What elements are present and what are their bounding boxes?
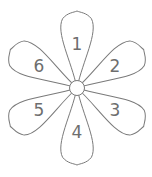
petal-label: 5 — [34, 100, 45, 120]
petal-label: 6 — [34, 56, 45, 76]
petal-label: 1 — [72, 34, 83, 54]
petal-label: 3 — [110, 100, 121, 120]
petal-label: 4 — [72, 122, 83, 142]
flower-center — [70, 81, 85, 96]
petal-label: 2 — [110, 56, 121, 76]
flower-diagram: 123456 — [0, 0, 152, 177]
